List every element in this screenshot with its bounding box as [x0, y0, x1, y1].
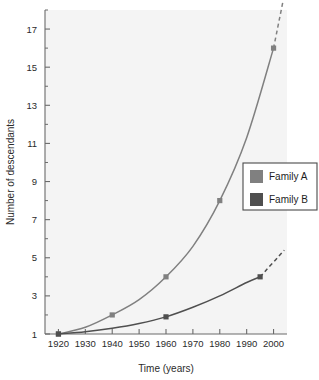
- data-point-marker: [271, 46, 276, 51]
- descendants-line-chart: 1357911131517 19201930194019501960197019…: [0, 0, 319, 380]
- x-tick-label: 2000: [263, 338, 284, 349]
- x-tick-label: 1950: [129, 338, 150, 349]
- y-tick-label: 1: [32, 329, 37, 340]
- y-tick-label: 9: [32, 176, 37, 187]
- y-axis-title: Number of descendants: [5, 119, 16, 225]
- y-tick-label: 11: [27, 138, 37, 149]
- y-tick-label: 15: [26, 62, 37, 73]
- data-point-marker: [56, 331, 61, 336]
- x-tick-label: 1920: [48, 338, 69, 349]
- data-point-marker: [163, 314, 168, 319]
- x-tick-label: 1960: [155, 338, 176, 349]
- y-tick-label: 5: [32, 252, 37, 263]
- x-tick-label: 1990: [236, 338, 257, 349]
- data-point-marker: [163, 274, 168, 279]
- x-tick-label: 1980: [209, 338, 230, 349]
- y-axis-tick-labels: 1357911131517: [26, 24, 37, 340]
- y-tick-label: 3: [32, 290, 37, 301]
- legend-label: Family B: [269, 194, 308, 205]
- legend-swatch: [250, 170, 263, 183]
- y-tick-label: 17: [26, 24, 37, 35]
- chart-container: 1357911131517 19201930194019501960197019…: [0, 0, 319, 380]
- x-axis-tick-labels: 192019301940195019601970198019902000: [48, 338, 284, 349]
- data-point-marker: [258, 274, 263, 279]
- data-point-marker: [217, 198, 222, 203]
- legend: Family AFamily B: [243, 163, 317, 210]
- x-tick-label: 1940: [102, 338, 123, 349]
- legend-label: Family A: [269, 171, 308, 182]
- x-axis-title: Time (years): [138, 363, 194, 374]
- y-tick-label: 13: [26, 100, 37, 111]
- y-tick-label: 7: [32, 214, 37, 225]
- legend-swatch: [250, 193, 263, 206]
- data-point-marker: [110, 312, 115, 317]
- x-tick-label: 1930: [75, 338, 96, 349]
- x-tick-label: 1970: [182, 338, 203, 349]
